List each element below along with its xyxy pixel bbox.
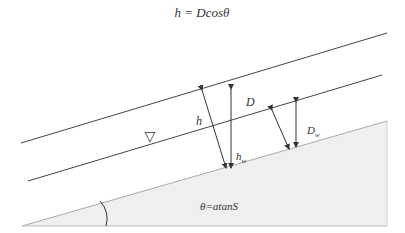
D-label: D [245, 95, 255, 109]
formula-title: h = Dcosθ [175, 5, 230, 20]
hw-label: hw [236, 150, 247, 165]
h-arrow [202, 90, 226, 168]
top-surface-line [21, 33, 387, 143]
theta-equation: θ=atanS [200, 200, 238, 212]
h-label: h [196, 114, 202, 128]
hw-arrow [272, 110, 289, 149]
slope-diagram: h = Dcosθ ▽ D h hw Dw θ=atanS [0, 0, 405, 233]
Dw-label: Dw [306, 124, 320, 139]
water-table-symbol: ▽ [145, 128, 156, 144]
